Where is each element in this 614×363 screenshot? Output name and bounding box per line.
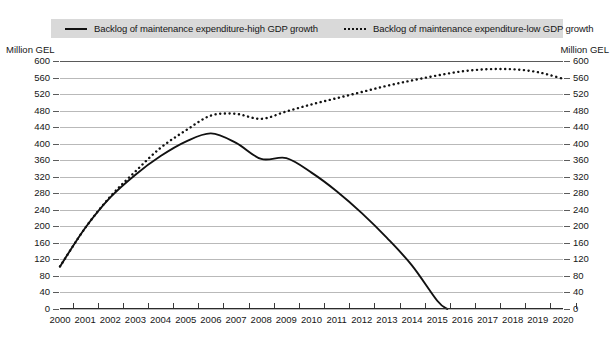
y-axis-label-left: 320 [34, 172, 50, 182]
x-axis-label: 2016 [452, 314, 473, 325]
x-axis-label: 2011 [326, 314, 346, 325]
chart-container: Backlog of maintenance expenditure-high … [0, 0, 614, 363]
series-layer [60, 61, 563, 309]
y-axis-label-left: 40 [39, 287, 50, 297]
y-axis-tick-right [564, 292, 570, 293]
y-axis-tick-right [564, 78, 570, 79]
y-axis-label-right: 200 [573, 221, 589, 231]
y-axis-tick-right [564, 243, 570, 244]
legend-item-low-gdp: Backlog of maintenance expenditure-low G… [344, 23, 593, 34]
y-axis-label-right: 360 [573, 155, 589, 165]
y-axis-label-left: 120 [34, 254, 50, 264]
y-axis-label-right: 120 [573, 254, 589, 264]
y-axis-label-left: 80 [39, 271, 50, 281]
y-axis-tick-left [53, 226, 59, 227]
y-axis-tick-left [53, 292, 59, 293]
y-axis-tick-left [53, 127, 59, 128]
y-axis-tick-right [564, 94, 570, 95]
y-axis-label-right: 320 [573, 172, 589, 182]
x-axis-label: 2019 [527, 314, 548, 325]
x-axis-label: 2001 [75, 314, 96, 325]
x-axis-label: 2020 [552, 314, 573, 325]
x-axis-label: 2004 [150, 314, 171, 325]
y-axis-tick-right [564, 226, 570, 227]
y-axis-label-left: 600 [34, 56, 50, 66]
chart-legend: Backlog of maintenance expenditure-high … [51, 19, 563, 38]
x-axis-label: 2015 [427, 314, 448, 325]
y-axis-tick-left [53, 210, 59, 211]
y-axis-label-left: 0 [45, 304, 50, 314]
x-axis-label: 2014 [402, 314, 423, 325]
x-axis-label: 2000 [49, 314, 70, 325]
y-axis-tick-right [564, 160, 570, 161]
y-axis-label-left: 560 [34, 73, 50, 83]
y-axis-label-right: 240 [573, 205, 589, 215]
y-axis-label-right: 520 [573, 89, 589, 99]
x-axis-label: 2006 [200, 314, 221, 325]
series-line-low-gdp [60, 69, 563, 266]
y-axis-label-right: 560 [573, 73, 589, 83]
y-axis-tick-left [53, 243, 59, 244]
y-axis-left-caption: Million GEL [6, 44, 55, 55]
y-axis-label-right: 440 [573, 122, 589, 132]
y-axis-label-right: 280 [573, 188, 589, 198]
legend-item-high-gdp: Backlog of maintenance expenditure-high … [65, 23, 318, 34]
gridline [60, 309, 563, 310]
y-axis-label-left: 520 [34, 89, 50, 99]
y-axis-tick-left [53, 193, 59, 194]
dotted-line-swatch-icon [344, 28, 366, 30]
y-axis-label-left: 160 [34, 238, 50, 248]
y-axis-label-right: 400 [573, 139, 589, 149]
y-axis-label-left: 360 [34, 155, 50, 165]
y-axis-tick-right [564, 259, 570, 260]
x-axis-line [60, 308, 563, 309]
y-axis-tick-right [564, 127, 570, 128]
y-axis-tick-left [53, 144, 59, 145]
y-axis-tick-left [53, 111, 59, 112]
y-axis-label-left: 400 [34, 139, 50, 149]
x-axis-label: 2018 [502, 314, 523, 325]
y-axis-tick-left [53, 78, 59, 79]
y-axis-tick-left [53, 177, 59, 178]
x-axis-label: 2003 [125, 314, 146, 325]
x-axis-label: 2005 [175, 314, 196, 325]
solid-line-swatch-icon [65, 28, 87, 30]
y-axis-label-right: 160 [573, 238, 589, 248]
y-axis-tick-left [53, 309, 59, 310]
x-axis-label: 2007 [225, 314, 246, 325]
y-axis-tick-left [53, 160, 59, 161]
y-axis-label-right: 80 [573, 271, 584, 281]
y-axis-tick-right [564, 276, 570, 277]
y-axis-tick-right [564, 61, 570, 62]
x-axis-label: 2017 [477, 314, 498, 325]
y-axis-label-left: 240 [34, 205, 50, 215]
y-axis-tick-right [564, 111, 570, 112]
y-axis-tick-right [564, 177, 570, 178]
legend-label-low-gdp: Backlog of maintenance expenditure-low G… [373, 23, 593, 34]
y-axis-label-right: 480 [573, 106, 589, 116]
x-axis-label: 2010 [301, 314, 322, 325]
x-axis-label: 2012 [351, 314, 372, 325]
y-axis-tick-right [564, 210, 570, 211]
y-axis-tick-right [564, 309, 570, 310]
x-axis-tick [576, 303, 577, 309]
x-axis-label: 2002 [100, 314, 121, 325]
x-axis-label: 2008 [251, 314, 272, 325]
series-line-high-gdp [60, 133, 447, 309]
y-axis-label-right: 600 [573, 56, 589, 66]
y-axis-tick-left [53, 276, 59, 277]
y-axis-label-left: 480 [34, 106, 50, 116]
x-axis-label: 2009 [276, 314, 297, 325]
x-axis-label: 2013 [376, 314, 397, 325]
legend-label-high-gdp: Backlog of maintenance expenditure-high … [94, 23, 318, 34]
y-axis-right-caption: Million GEL [560, 44, 609, 55]
y-axis-label-left: 440 [34, 122, 50, 132]
y-axis-tick-left [53, 94, 59, 95]
y-axis-label-right: 40 [573, 287, 584, 297]
y-axis-tick-left [53, 61, 59, 62]
y-axis-label-left: 280 [34, 188, 50, 198]
y-axis-tick-right [564, 144, 570, 145]
y-axis-tick-left [53, 259, 59, 260]
y-axis-label-left: 200 [34, 221, 50, 231]
plot-area: 0040408080120120160160200200240240280280… [60, 61, 563, 309]
